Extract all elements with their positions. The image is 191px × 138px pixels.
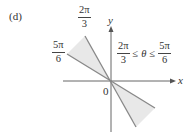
angle-label-2pi-3: 2π 3: [78, 5, 91, 29]
angle-label-5pi-6: 5π 6: [52, 40, 65, 64]
leq-symbol: ≤: [133, 48, 139, 59]
fraction-denominator: 3: [82, 18, 87, 30]
y-axis-label: y: [108, 15, 113, 26]
x-axis-label: x: [178, 75, 183, 86]
fraction-numerator: 2π: [117, 41, 130, 54]
origin-label: 0: [103, 86, 109, 97]
condition-upper-bound: 5π 6: [158, 41, 171, 65]
x-axis-arrow-icon: [170, 79, 176, 84]
y-axis-arrow-icon: [109, 26, 114, 32]
polar-region-diagram: [0, 0, 191, 138]
region-condition: 2π 3 ≤ θ ≤ 5π 6: [117, 41, 171, 65]
fraction-numerator: 5π: [52, 40, 65, 53]
fraction-numerator: 5π: [158, 41, 171, 54]
panel-label: (d): [9, 11, 22, 22]
leq-symbol: ≤: [150, 48, 156, 59]
condition-lower-bound: 2π 3: [117, 41, 130, 65]
theta-symbol: θ: [141, 48, 146, 59]
fraction-denominator: 6: [56, 53, 61, 65]
fraction-denominator: 6: [162, 54, 167, 66]
fraction-denominator: 3: [121, 54, 126, 66]
fraction-numerator: 2π: [78, 5, 91, 18]
